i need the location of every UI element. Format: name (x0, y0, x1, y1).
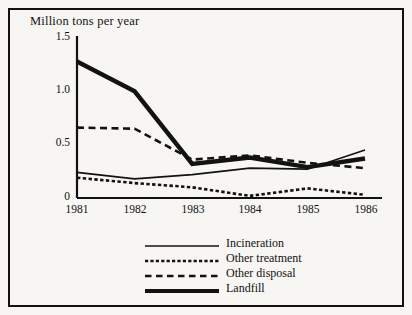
xtick-label-1985: 1985 (286, 203, 330, 215)
xtick-label-1986: 1986 (344, 203, 388, 215)
series-group (77, 61, 365, 195)
legend-swatch-solid-thick (143, 283, 221, 295)
legend-label-incineration: Incineration (226, 236, 284, 251)
series-line-other-treatment (77, 178, 365, 196)
ytick-label-1-0: 1.0 (36, 83, 70, 95)
legend-swatch-solid-thin (143, 238, 221, 250)
series-line-landfill (77, 61, 365, 167)
ytick-label-0: 0 (36, 190, 70, 202)
xtick-label-1981: 1981 (55, 203, 99, 215)
xtick-label-1984: 1984 (228, 203, 272, 215)
legend-item-incineration: Incineration (143, 236, 353, 251)
legend-swatch-dashed (143, 268, 221, 280)
chart-legend: Incineration Other treatment Other dispo… (143, 236, 353, 296)
xtick-label-1983: 1983 (171, 203, 215, 215)
chart-figure: Million tons per year 1.5 1.0 0.5 0 1981… (0, 0, 412, 315)
legend-label-other-treatment: Other treatment (226, 251, 302, 266)
legend-item-other-treatment: Other treatment (143, 251, 353, 266)
legend-swatch-dotted (143, 253, 221, 265)
legend-item-landfill: Landfill (143, 281, 353, 296)
legend-item-other-disposal: Other disposal (143, 266, 353, 281)
ytick-label-1-5: 1.5 (36, 30, 70, 42)
xtick-label-1982: 1982 (113, 203, 157, 215)
legend-label-landfill: Landfill (226, 281, 265, 296)
ytick-label-0-5: 0.5 (36, 136, 70, 148)
legend-label-other-disposal: Other disposal (226, 266, 296, 281)
